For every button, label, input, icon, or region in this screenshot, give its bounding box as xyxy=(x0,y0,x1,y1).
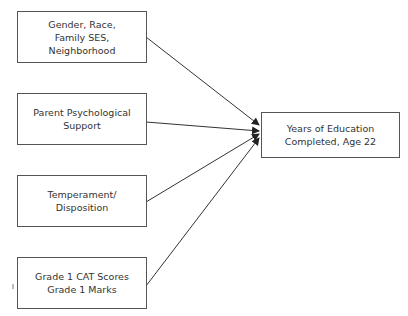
predictor-label-temperament: Temperament/ Disposition xyxy=(48,188,117,214)
edge-demographics-to-education xyxy=(146,37,259,125)
predictor-box-parent-support: Parent Psychological Support xyxy=(17,93,147,145)
edge-grade1-to-education xyxy=(146,138,259,286)
stray-mark xyxy=(12,284,14,289)
predictor-box-grade1: Grade 1 CAT Scores Grade 1 Marks xyxy=(17,257,147,309)
predictor-label-parent-support: Parent Psychological Support xyxy=(33,106,130,132)
predictor-label-grade1: Grade 1 CAT Scores Grade 1 Marks xyxy=(35,270,129,296)
edge-temperament-to-education xyxy=(146,134,259,202)
predictor-label-demographics: Gender, Race, Family SES, Neighborhood xyxy=(48,18,115,57)
predictor-box-demographics: Gender, Race, Family SES, Neighborhood xyxy=(17,11,147,63)
predictor-box-temperament: Temperament/ Disposition xyxy=(17,175,147,227)
edge-parent-support-to-education xyxy=(146,122,259,131)
outcome-box-education: Years of Education Completed, Age 22 xyxy=(261,112,400,158)
outcome-label-education: Years of Education Completed, Age 22 xyxy=(285,122,376,148)
